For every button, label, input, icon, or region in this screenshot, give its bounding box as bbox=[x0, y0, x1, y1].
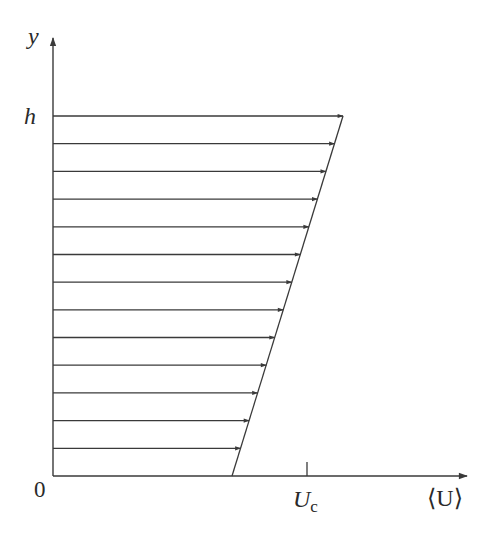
y-axis-label: y bbox=[26, 23, 39, 49]
uc-label: Uc bbox=[293, 486, 318, 516]
x-axis-label: ⟨U⟩ bbox=[427, 485, 463, 511]
h-label: h bbox=[24, 103, 36, 129]
velocity-profile-diagram: y h 0 Uc ⟨U⟩ bbox=[0, 0, 491, 544]
profile-line bbox=[232, 116, 343, 476]
origin-label: 0 bbox=[34, 477, 46, 502]
velocity-arrows bbox=[53, 116, 343, 448]
